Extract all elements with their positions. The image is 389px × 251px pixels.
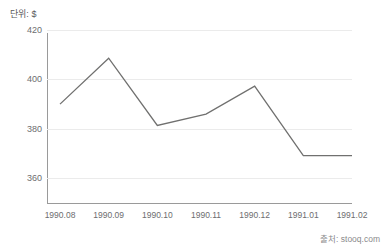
x-tick-label: 1991.02 [337, 210, 368, 220]
y-tick-label: 360 [27, 174, 42, 183]
line-series-path [60, 58, 352, 155]
line-series-svg [47, 30, 352, 203]
x-axis-tick-labels: 1990.081990.091990.101990.111990.121991.… [47, 210, 352, 224]
x-tick-label: 1991.01 [288, 210, 319, 220]
x-tick-label: 1990.11 [191, 210, 221, 220]
y-tick-label: 400 [27, 75, 42, 84]
chart-container: 단위: $ 360380400420 1990.081990.091990.10… [0, 0, 389, 251]
y-tick-label: 380 [27, 125, 42, 134]
x-tick-label: 1990.10 [142, 210, 173, 220]
y-axis-tick-labels: 360380400420 [0, 0, 42, 251]
x-tick-label: 1990.09 [93, 210, 124, 220]
x-tick-label: 1990.08 [45, 210, 76, 220]
x-axis-spine [47, 203, 352, 204]
source-label: 출처: stooq.com [320, 232, 380, 244]
plot-area [47, 30, 352, 203]
x-tick-label: 1990.12 [239, 210, 270, 220]
y-tick-label: 420 [27, 26, 42, 35]
